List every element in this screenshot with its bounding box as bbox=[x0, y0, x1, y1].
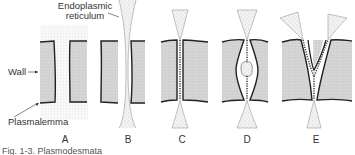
wall-segment bbox=[70, 41, 87, 103]
pore-region bbox=[55, 40, 70, 105]
er-strand-top-left bbox=[280, 12, 303, 40]
label-wall: Wall bbox=[8, 66, 26, 77]
label-plasmalemma: Plasmalemma bbox=[8, 116, 69, 127]
er-strand-bottom bbox=[237, 100, 257, 128]
panel-b: B bbox=[119, 0, 145, 145]
er-strand-top bbox=[172, 10, 188, 40]
er-strand-bottom bbox=[307, 100, 321, 128]
panel-label-b: B bbox=[125, 134, 132, 145]
wall-segment bbox=[100, 41, 118, 103]
central-cavity bbox=[241, 62, 252, 76]
er-strand-top-right bbox=[328, 14, 347, 40]
figure-caption: Fig. 1-3. Plasmodesmata bbox=[2, 146, 102, 155]
panel-e: E bbox=[280, 12, 352, 145]
panel-a: A bbox=[40, 25, 118, 145]
wall-segment bbox=[317, 40, 352, 101]
panel-label-a: A bbox=[62, 134, 69, 145]
er-strand-top bbox=[237, 10, 257, 40]
panel-label-d: D bbox=[243, 134, 250, 145]
plasmalemma-leader-line bbox=[14, 103, 38, 117]
panel-c: C bbox=[161, 10, 208, 145]
er-strand-bottom bbox=[172, 100, 188, 128]
er-leader-line bbox=[108, 13, 119, 17]
wall-segment bbox=[161, 40, 177, 102]
panel-label-c: C bbox=[178, 134, 185, 145]
wall-segment bbox=[131, 41, 145, 103]
wall-segment bbox=[183, 40, 208, 102]
panel-d: D bbox=[222, 10, 268, 145]
panel-label-e: E bbox=[313, 134, 320, 145]
plasmalemma-arrow-icon bbox=[36, 103, 40, 106]
wall-arrow-icon bbox=[35, 71, 38, 74]
label-reticulum: reticulum bbox=[66, 10, 105, 21]
wall-segment bbox=[40, 41, 55, 103]
plasmodesmata-diagram: A B C D bbox=[0, 0, 355, 155]
